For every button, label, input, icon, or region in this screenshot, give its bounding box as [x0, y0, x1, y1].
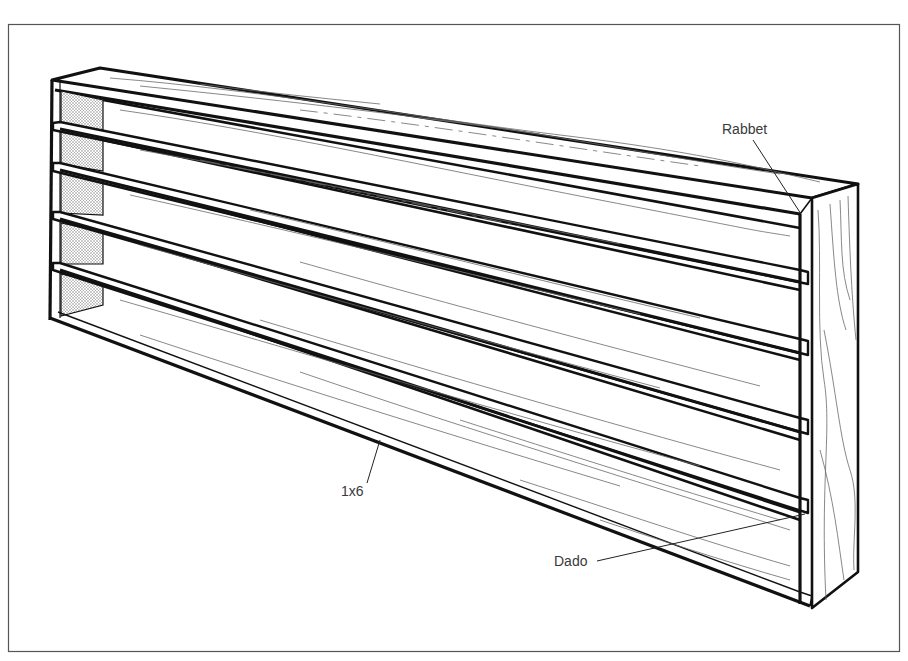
wood-grain [120, 110, 790, 580]
dado-label: Dado [554, 554, 587, 568]
right-front-edge [800, 200, 812, 608]
left-end-panel [50, 80, 60, 320]
shelf-illustration [0, 0, 908, 661]
right-end-panel [800, 184, 858, 608]
bottom-board [50, 312, 812, 606]
board-leader-line [367, 440, 380, 483]
rabbet-label: Rabbet [722, 122, 767, 136]
board-size-label: 1x6 [341, 484, 364, 498]
